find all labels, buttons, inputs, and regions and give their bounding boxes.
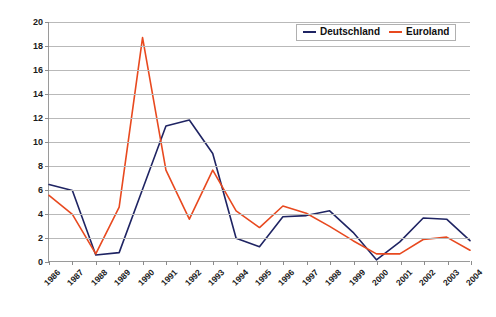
gridline	[49, 166, 470, 167]
x-axis-tick	[330, 261, 331, 265]
y-axis-label: 18	[33, 42, 43, 51]
legend-label-euroland: Euroland	[406, 27, 449, 37]
x-axis-tick	[354, 261, 355, 265]
x-axis-tick	[96, 261, 97, 265]
y-axis-tick	[45, 94, 49, 95]
y-axis-tick	[45, 70, 49, 71]
y-axis-label: 8	[38, 162, 43, 171]
gridline	[49, 46, 470, 47]
legend-entry-euroland: Euroland	[389, 27, 449, 37]
x-axis-label: 1995	[254, 268, 273, 287]
x-axis-tick	[166, 261, 167, 265]
x-axis-label: 2000	[371, 268, 390, 287]
x-axis-tick	[119, 261, 120, 265]
x-axis-label: 1999	[347, 268, 366, 287]
y-axis-label: 20	[33, 18, 43, 27]
x-axis-label: 1986	[43, 268, 62, 287]
legend-entry-deutschland: Deutschland	[303, 27, 380, 37]
x-axis-label: 1989	[113, 268, 132, 287]
x-axis-tick	[471, 261, 472, 265]
y-axis-tick	[45, 118, 49, 119]
x-axis-tick	[143, 261, 144, 265]
y-axis-label: 16	[33, 66, 43, 75]
x-axis-label: 2002	[418, 268, 437, 287]
x-axis-tick	[260, 261, 261, 265]
y-axis-tick	[45, 238, 49, 239]
gridline	[49, 190, 470, 191]
y-axis-label: 14	[33, 90, 43, 99]
x-axis-tick	[237, 261, 238, 265]
x-axis-tick	[401, 261, 402, 265]
x-axis-label: 2004	[465, 268, 484, 287]
x-axis-tick	[377, 261, 378, 265]
y-axis-label: 6	[38, 186, 43, 195]
x-axis-tick	[307, 261, 308, 265]
x-axis-label: 2003	[441, 268, 460, 287]
chart-legend: Deutschland Euroland	[296, 24, 456, 41]
x-axis-tick	[72, 261, 73, 265]
y-axis-label: 4	[38, 210, 43, 219]
y-axis-tick	[45, 22, 49, 23]
x-axis-label: 1987	[66, 268, 85, 287]
x-axis-tick	[448, 261, 449, 265]
y-axis-label: 12	[33, 114, 43, 123]
legend-swatch-euroland	[389, 31, 402, 33]
x-axis-tick	[213, 261, 214, 265]
gridline	[49, 70, 470, 71]
legend-label-deutschland: Deutschland	[320, 27, 380, 37]
gridline	[49, 142, 470, 143]
legend-swatch-deutschland	[303, 31, 316, 33]
gridline	[49, 118, 470, 119]
plot-area: 0246810121416182019861987198819891990199…	[48, 22, 470, 262]
x-axis-tick	[49, 261, 50, 265]
y-axis-tick	[45, 142, 49, 143]
gridline	[49, 238, 470, 239]
x-axis-label: 1992	[183, 268, 202, 287]
gridline	[49, 22, 470, 23]
x-axis-label: 1991	[160, 268, 179, 287]
x-axis-label: 1997	[300, 268, 319, 287]
x-axis-label: 1990	[136, 268, 155, 287]
gridline	[49, 94, 470, 95]
x-axis-label: 1998	[324, 268, 343, 287]
line-chart: Werte der Verlustfunktion 02468101214161…	[0, 0, 496, 317]
y-axis-tick	[45, 214, 49, 215]
x-axis-tick	[283, 261, 284, 265]
y-axis-tick	[45, 46, 49, 47]
gridline	[49, 214, 470, 215]
x-axis-label: 1994	[230, 268, 249, 287]
x-axis-tick	[424, 261, 425, 265]
y-axis-label: 2	[38, 234, 43, 243]
y-axis-label: 0	[38, 258, 43, 267]
x-axis-label: 2001	[394, 268, 413, 287]
y-axis-label: 10	[33, 138, 43, 147]
x-axis-tick	[190, 261, 191, 265]
y-axis-tick	[45, 190, 49, 191]
x-axis-label: 1988	[89, 268, 108, 287]
y-axis-tick	[45, 166, 49, 167]
x-axis-label: 1996	[277, 268, 296, 287]
x-axis-label: 1993	[207, 268, 226, 287]
